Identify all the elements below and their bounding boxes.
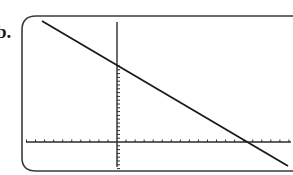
graphed-line — [42, 21, 288, 166]
calculator-graph-window — [0, 0, 293, 175]
graph-frame — [22, 16, 293, 171]
